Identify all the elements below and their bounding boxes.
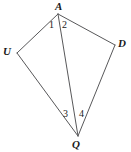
angle-label-4: 4 (79, 109, 84, 119)
angle-label-3: 3 (63, 109, 68, 119)
edge-A-Q-diagonal (58, 14, 78, 136)
angle-label-2: 2 (62, 20, 67, 30)
edge-U-Q (17, 53, 78, 136)
vertex-label-A: A (55, 1, 62, 12)
vertex-label-U: U (3, 46, 11, 57)
geometry-figure: A U D Q 1 2 3 4 (0, 0, 131, 152)
angle-label-1: 1 (49, 20, 54, 30)
edge-D-Q (78, 45, 115, 136)
vertex-label-D: D (118, 38, 126, 49)
vertex-label-Q: Q (72, 139, 80, 150)
